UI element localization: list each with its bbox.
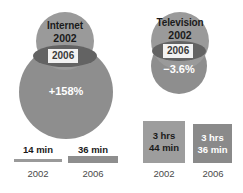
internet-bar-2002-value: 14 min <box>12 144 64 155</box>
infographic-root: Internet 2002 2006 +158% 14 min 2002 36 … <box>0 0 243 193</box>
television-box-2006-line2: 36 min <box>197 144 227 156</box>
internet-change-label: +158% <box>19 85 113 97</box>
television-box-2002-year: 2002 <box>141 168 187 179</box>
internet-bubble-2006-year-chip: 2006 <box>48 49 78 63</box>
television-box-2002-line1: 3 hrs <box>149 130 179 142</box>
television-bubble-2006-year-chip: 2006 <box>163 44 193 58</box>
panel-internet: Internet 2002 2006 +158% 14 min 2002 36 … <box>0 0 133 193</box>
television-category-label: Television <box>146 17 214 29</box>
television-box-2006: 3 hrs 36 min <box>193 124 232 163</box>
internet-category-label: Internet <box>36 20 94 32</box>
television-bubble-2002-year: 2002 <box>151 29 209 41</box>
television-change-label: −3.6% <box>151 63 207 75</box>
panel-television: Television 2002 2006 −3.6% 3 hrs 44 min … <box>133 0 243 193</box>
television-box-2002-line2: 44 min <box>149 142 179 154</box>
internet-bar-2006 <box>68 156 118 163</box>
television-box-2002: 3 hrs 44 min <box>143 121 185 163</box>
internet-bar-2002-year: 2002 <box>12 168 64 179</box>
internet-bar-2006-value: 36 min <box>66 144 120 155</box>
television-box-2006-text: 3 hrs 36 min <box>197 132 227 156</box>
television-box-2006-year: 2006 <box>190 168 236 179</box>
internet-bar-2002 <box>14 159 62 162</box>
television-box-2002-text: 3 hrs 44 min <box>149 130 179 154</box>
internet-bar-2006-year: 2006 <box>66 168 120 179</box>
internet-bubble-2002-year: 2002 <box>36 32 94 44</box>
television-box-2006-line1: 3 hrs <box>197 132 227 144</box>
